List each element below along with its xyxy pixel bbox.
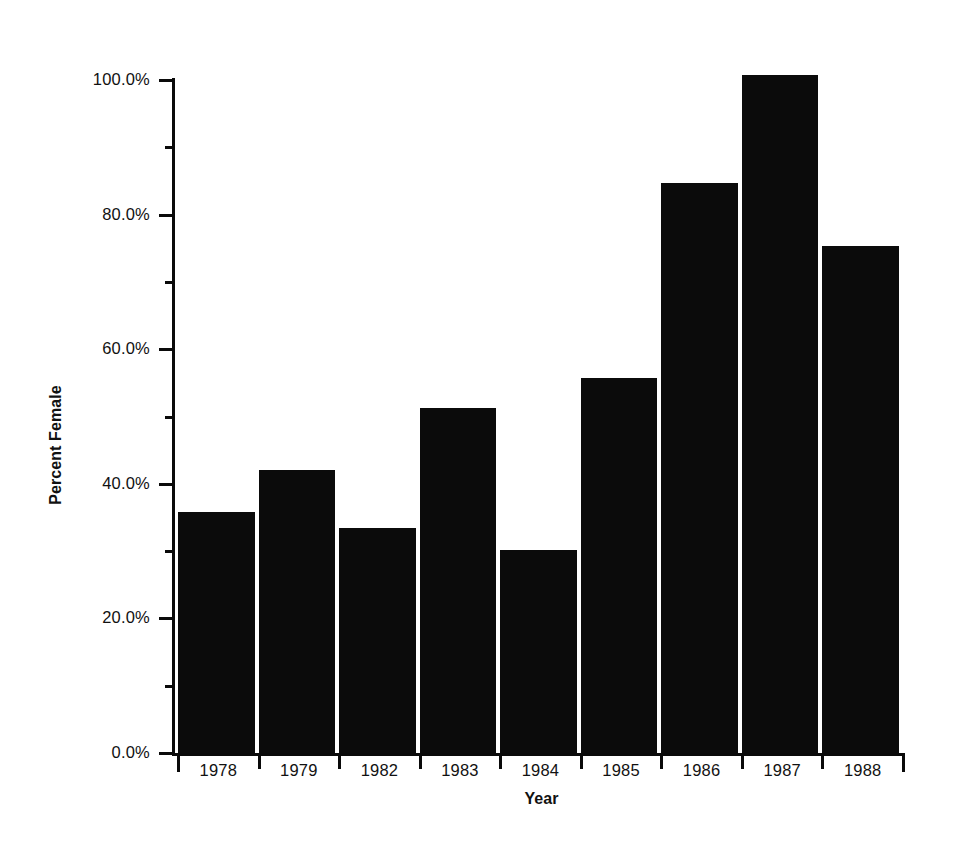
x-axis-tick-label: 1983	[420, 761, 501, 780]
bar	[259, 470, 336, 753]
bar	[178, 512, 255, 753]
bar	[420, 408, 497, 753]
bar	[742, 75, 819, 753]
x-axis-title: Year	[178, 790, 905, 808]
bar	[500, 550, 577, 753]
bar	[339, 528, 416, 753]
bar-chart-figure: Percent Female 0.0%20.0%40.0%60.0%80.0%1…	[0, 0, 966, 841]
x-axis-tick-label: 1988	[822, 761, 903, 780]
x-axis-tick-label: 1978	[178, 761, 259, 780]
x-axis-tick-label: 1987	[742, 761, 823, 780]
x-axis-tick-label: 1982	[339, 761, 420, 780]
x-axis-tick-label: 1979	[259, 761, 340, 780]
bar	[822, 246, 899, 753]
x-axis-tick-label: 1984	[500, 761, 581, 780]
bars-layer	[0, 0, 966, 841]
x-axis-tick-label: 1986	[661, 761, 742, 780]
bar	[661, 183, 738, 753]
x-axis-tick-label: 1985	[581, 761, 662, 780]
bar	[581, 378, 658, 753]
